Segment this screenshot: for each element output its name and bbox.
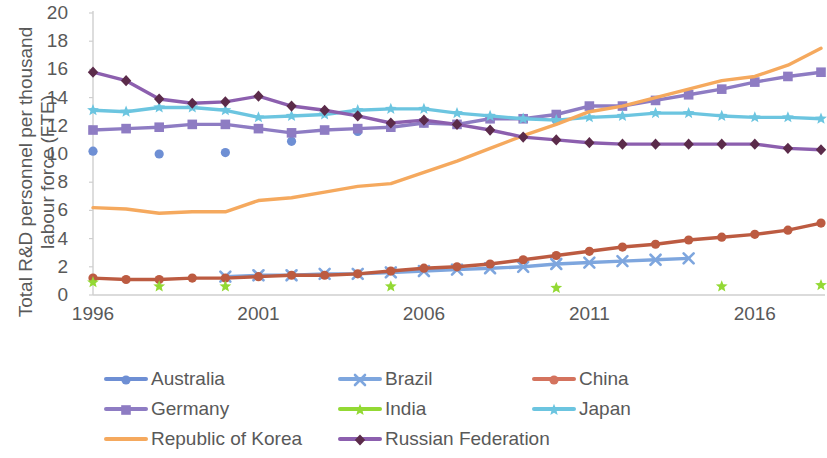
legend-label: China [579,368,629,390]
legend-item-india[interactable]: India [338,394,532,424]
series-china [88,218,825,284]
data-point-marker [717,84,727,94]
data-point-marker [153,280,165,291]
legend-item-japan[interactable]: Japan [532,394,762,424]
data-point-marker [584,137,594,148]
data-point-marker [717,139,727,150]
data-point-marker [750,230,759,239]
data-point-marker [816,67,826,77]
y-tick-label: 0 [28,285,68,304]
chart-svg [82,8,827,296]
data-point-marker [618,242,627,251]
data-point-marker [716,110,728,121]
x-axis-tick-labels: 19962001200620112016 [0,303,827,331]
legend-item-republic-of-korea[interactable]: Republic of Korea [104,424,338,454]
x-tick-label: 2001 [237,303,279,325]
data-point-marker [154,122,164,132]
series-line [93,48,821,213]
data-point-marker [254,272,263,281]
data-point-marker [750,77,760,87]
y-axis-tick-labels: 20181614121086420 [22,0,68,300]
data-point-marker [749,111,761,122]
data-point-marker [783,226,792,235]
legend-swatch-icon [338,369,382,389]
legend-label: Australia [151,368,225,390]
data-point-marker [121,124,131,134]
legend-item-brazil[interactable]: Brazil [338,364,532,394]
data-point-marker [385,280,397,291]
data-point-marker [287,271,296,280]
data-point-marker [120,106,132,117]
legend-swatch-icon [532,399,576,419]
data-point-marker [816,144,826,155]
data-point-marker [88,147,97,156]
data-point-marker [155,149,164,158]
data-point-marker [683,139,693,150]
data-point-marker [355,434,365,445]
legend-label: Japan [579,398,631,420]
y-tick-label: 12 [28,116,68,135]
data-point-marker [717,233,726,242]
data-point-marker [651,240,660,249]
legend-label: Russian Federation [385,428,550,450]
data-point-marker [815,279,827,290]
legend-item-russian-federation[interactable]: Russian Federation [338,424,532,454]
legend-marker-x-icon [352,372,368,388]
data-point-marker [548,404,560,415]
data-point-marker [519,255,528,264]
x-tick-label: 2006 [403,303,445,325]
legend-item-germany[interactable]: Germany [104,394,338,424]
data-point-marker [782,111,794,122]
data-point-marker [253,91,263,102]
series-republic-of-korea [93,48,821,213]
data-point-marker [286,100,296,111]
legend-marker-star-icon [352,402,368,418]
x-tick-label: 1996 [72,303,114,325]
data-point-marker [683,107,695,118]
y-tick-label: 4 [28,229,68,248]
legend-swatch-icon [104,399,148,419]
legend-row: Republic of KoreaRussian Federation [104,424,804,454]
data-point-marker [287,128,297,138]
data-point-marker [585,247,594,256]
y-tick-label: 8 [28,172,68,191]
legend-marker-circle-icon [546,372,562,388]
data-point-marker [816,218,825,227]
chart-container: Total R&D personnel per thousand labour … [0,0,827,458]
data-point-marker [320,271,329,280]
legend-swatch-icon [104,369,148,389]
data-point-marker [550,282,562,293]
chart-legend: AustraliaBrazilChinaGermanyIndiaJapanRep… [104,364,804,454]
legend-marker-diamond-icon [352,432,368,448]
data-point-marker [617,139,627,150]
data-point-marker [354,404,366,415]
data-point-marker [452,262,461,271]
data-point-marker [716,280,728,291]
data-point-marker [451,107,463,118]
y-tick-label: 6 [28,200,68,219]
data-point-marker [783,72,793,82]
data-point-marker [121,275,130,284]
legend-label: India [385,398,426,420]
data-point-marker [385,103,397,114]
data-point-marker [188,273,197,282]
data-point-marker [287,137,296,146]
data-point-marker [650,107,662,118]
data-point-marker [121,375,130,384]
legend-item-china[interactable]: China [532,364,762,394]
y-tick-label: 16 [28,59,68,78]
legend-swatch-icon [104,429,148,449]
legend-item-australia[interactable]: Australia [104,364,338,394]
plot-area [82,8,827,296]
data-point-marker [485,259,494,268]
legend-marker-star-icon [546,402,562,418]
data-point-marker [221,120,231,130]
data-point-marker [783,143,793,154]
legend-label: Republic of Korea [151,428,302,450]
data-point-marker [220,96,230,107]
data-point-marker [684,235,693,244]
data-point-marker [617,110,629,121]
legend-swatch-icon [532,369,576,389]
y-tick-label: 20 [28,3,68,22]
data-point-marker [418,103,430,114]
